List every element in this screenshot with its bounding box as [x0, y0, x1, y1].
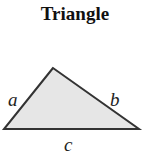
side-label-a: a — [8, 89, 18, 110]
side-label-c: c — [64, 134, 73, 155]
triangle-diagram: a b c — [0, 0, 150, 164]
side-label-b: b — [110, 89, 120, 110]
